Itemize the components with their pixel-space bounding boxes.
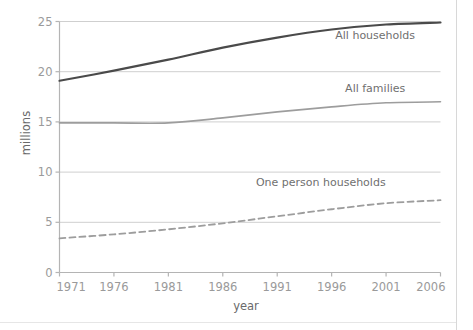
chart-figure: 0510152025197119761981198619911996200120… <box>0 0 473 330</box>
x-tick-label: 1986 <box>208 280 237 294</box>
x-tick-label: 1976 <box>99 280 128 294</box>
x-axis-title: year <box>233 299 259 313</box>
figure-bottom-border <box>0 322 457 323</box>
y-tick-label: 20 <box>38 65 53 79</box>
series-label-2: One person households <box>256 176 386 189</box>
series-line-1 <box>60 102 441 123</box>
y-tick-label: 0 <box>45 266 52 280</box>
x-tick-label: 1991 <box>263 280 292 294</box>
y-tick-label: 5 <box>45 215 52 229</box>
x-tick-label: 1981 <box>154 280 183 294</box>
y-tick-label: 25 <box>38 15 53 29</box>
x-tick-label: 1996 <box>317 280 346 294</box>
y-tick-label: 15 <box>38 115 53 129</box>
figure-right-border <box>456 0 457 330</box>
x-tick-label: 1971 <box>57 280 86 294</box>
x-tick-label: 2006 <box>416 280 445 294</box>
series-line-2 <box>60 200 441 238</box>
x-tick-label: 2001 <box>371 280 400 294</box>
line-chart-canvas: 0510152025197119761981198619911996200120… <box>0 0 473 330</box>
y-axis-title: millions <box>19 111 33 155</box>
series-label-1: All families <box>345 82 405 95</box>
y-tick-label: 10 <box>38 165 53 179</box>
series-label-0: All households <box>335 29 415 42</box>
